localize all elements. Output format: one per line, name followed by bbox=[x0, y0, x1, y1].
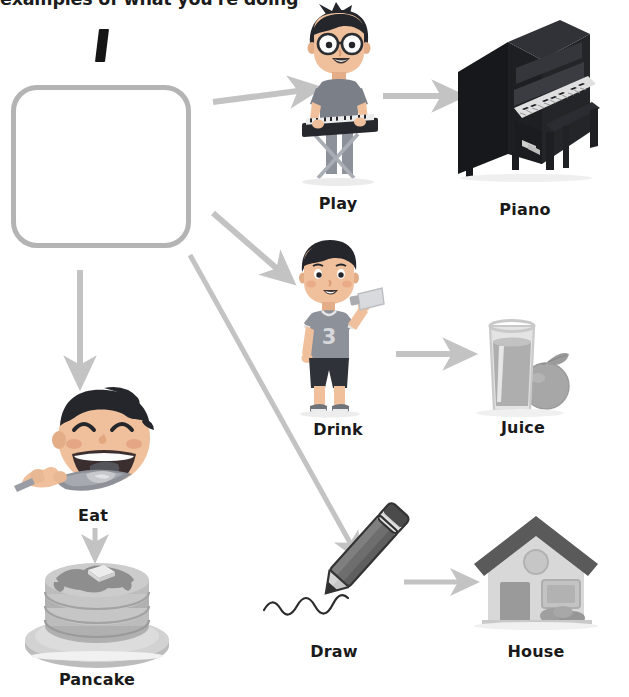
label-draw: Draw bbox=[258, 642, 410, 661]
answer-box[interactable] bbox=[11, 85, 191, 248]
pencil-drawing-line-icon bbox=[258, 506, 410, 636]
jersey-number: 3 bbox=[322, 325, 337, 349]
boy-drinking-bottle-icon: 3 bbox=[278, 238, 398, 418]
label-juice: Juice bbox=[468, 418, 578, 437]
cell-house: House bbox=[462, 506, 610, 661]
label-eat: Eat bbox=[8, 506, 178, 525]
cell-eat: Eat bbox=[8, 378, 178, 528]
label-drink: Drink bbox=[278, 420, 398, 439]
house-icon bbox=[462, 506, 610, 636]
pancake-stack-icon bbox=[14, 548, 180, 668]
label-piano: Piano bbox=[450, 200, 600, 219]
arrow-box-to-drink bbox=[213, 213, 282, 273]
juice-glass-orange-icon bbox=[468, 300, 578, 420]
cell-play: Play bbox=[288, 8, 388, 223]
letter-i-glyph bbox=[95, 29, 109, 62]
page-heading: examples of what you're doing. bbox=[0, 0, 300, 10]
label-pancake: Pancake bbox=[14, 670, 180, 689]
cell-pancake: Pancake bbox=[14, 548, 180, 693]
cell-juice: Juice bbox=[468, 300, 578, 450]
cell-drink: 3 Drink bbox=[278, 238, 398, 448]
face-eating-spoon-icon bbox=[8, 378, 178, 508]
upright-piano-icon bbox=[450, 14, 600, 184]
label-house: House bbox=[462, 642, 610, 661]
boy-playing-keyboard-icon bbox=[288, 8, 388, 188]
cell-draw: Draw bbox=[258, 506, 410, 661]
label-play: Play bbox=[288, 194, 388, 213]
cell-piano: Piano bbox=[450, 14, 600, 229]
worksheet-canvas: examples of what you're doing. bbox=[0, 0, 629, 697]
